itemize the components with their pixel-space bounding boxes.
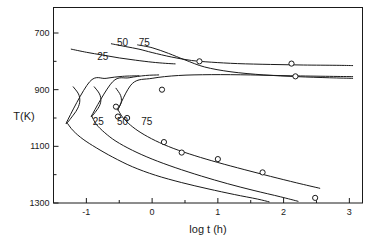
x-tick-label: 2 [281,207,286,217]
curve-label-lower-75: 75 [141,116,153,127]
x-tick-label: 0 [150,207,155,217]
data-point-marker [161,139,166,144]
ttt-diagram-figure: -10123 13001100900700 255075255075 log t… [0,0,374,240]
x-axis-ticks: -10123 [82,198,351,217]
data-point-group [113,59,317,201]
data-point-marker [293,74,298,79]
data-point-marker [313,195,318,200]
data-point-marker [179,150,184,155]
curve-upper-75 [138,45,353,78]
curve-label-lower-25: 25 [93,116,105,127]
curve-label-upper-50: 50 [117,37,129,48]
curve-label-lower-50: 50 [117,116,129,127]
curve-lower-50-tail [92,116,298,202]
y-tick-label: 1300 [29,198,49,208]
y-tick-label: 900 [34,85,49,95]
data-point-marker [215,156,220,161]
curve-lower-25-tail [67,122,269,202]
y-tick-label: 1100 [30,141,49,151]
data-point-marker [159,87,164,92]
curve-upper-25 [71,49,175,64]
x-tick-label: 3 [347,207,352,217]
plot-svg: -10123 13001100900700 255075255075 log t… [0,0,374,240]
data-point-marker [260,170,265,175]
curve-lower-75 [116,75,353,111]
curve-group [66,44,353,202]
curve-label-upper-75: 75 [139,37,151,48]
y-axis-title: T(K) [13,110,34,122]
x-tick-label: 1 [215,207,220,217]
y-tick-label: 700 [34,28,49,38]
x-axis-title: log t (h) [189,223,226,235]
x-tick-label: -1 [82,207,90,217]
data-point-marker [113,104,118,109]
data-point-marker [289,61,294,66]
data-point-marker [197,59,202,64]
curve-label-upper-25: 25 [97,51,109,62]
